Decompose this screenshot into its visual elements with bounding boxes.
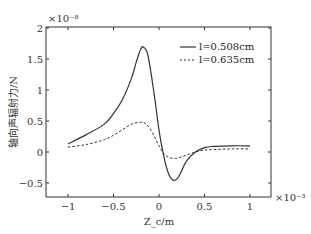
y-tick-label: 0: [37, 147, 43, 158]
x-tick-label: 0.5: [197, 201, 213, 212]
y-multiplier: ×10⁻⁸: [48, 13, 78, 24]
x-tick-label: 0: [156, 201, 162, 212]
line-chart: −1−0.500.51 −0.500.511.52 ×10⁻⁸ ×10⁻³ Z_…: [0, 0, 311, 234]
x-axis-label: Z_c/m: [144, 216, 175, 228]
data-series: [68, 47, 250, 181]
y-tick-label: 0.5: [27, 116, 43, 127]
y-tick-label: 1.5: [27, 54, 43, 65]
y-tick-label: 1: [37, 85, 43, 96]
x-tick-label: 1: [247, 201, 253, 212]
x-tick-label: −1: [61, 201, 76, 212]
series-line-0: [68, 47, 250, 181]
y-tick-label: 2: [37, 23, 43, 34]
y-axis-label: 轴向声辐射力/N: [7, 76, 19, 148]
y-tick-label: −0.5: [19, 178, 43, 189]
plot-frame: [46, 27, 271, 197]
x-multiplier: ×10⁻³: [275, 192, 305, 203]
legend: l=0.508cm l=0.635cm: [180, 41, 255, 65]
x-tick-label: −0.5: [101, 201, 125, 212]
legend-label-0: l=0.508cm: [199, 41, 255, 52]
legend-label-1: l=0.635cm: [199, 54, 255, 65]
